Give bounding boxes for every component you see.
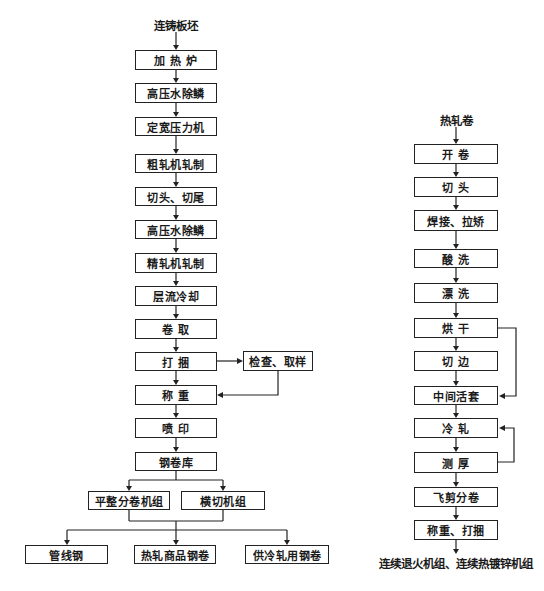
step-coiling: 卷 取 (135, 319, 217, 339)
step-laminar-cooling: 层流冷却 (135, 286, 217, 306)
step-head-cut: 切 头 (414, 177, 498, 197)
step-heating-furnace: 加 热 炉 (135, 50, 217, 70)
product-pipeline-steel: 管线钢 (25, 545, 108, 564)
product-commercial-hot-coil: 热轧商品钢卷 (134, 545, 216, 564)
process-flow-diagram: 连铸板坯 加 热 炉 高压水除鳞 定宽压力机 粗轧机轧制 切头、切尾 高压水除鳞… (0, 0, 544, 591)
step-coil-warehouse: 钢卷库 (135, 452, 217, 471)
step-bundling: 打 捆 (135, 352, 217, 371)
right-end-label: 连续退火机组、连续热镀锌机组 (379, 555, 533, 571)
step-pickling: 酸 洗 (414, 249, 498, 268)
step-rinsing: 漂 洗 (414, 283, 498, 303)
step-cold-rolling: 冷 轧 (414, 418, 498, 438)
step-weigh-bundle: 称重、打捆 (414, 520, 498, 540)
product-cold-rolling-coil: 供冷轧用钢卷 (245, 545, 329, 564)
step-flying-shear: 飞剪分卷 (414, 487, 498, 507)
right-start-label: 热轧卷 (440, 112, 473, 128)
step-marking: 喷 印 (135, 418, 217, 438)
branch-skin-pass-slitting: 平整分卷机组 (88, 491, 170, 510)
step-intermediate-looper: 中间活套 (414, 386, 498, 405)
step-rough-rolling: 粗轧机轧制 (135, 154, 217, 173)
step-thickness-gauge: 测 厚 (414, 452, 498, 473)
thickness-feedback (498, 425, 514, 462)
step-drying: 烘 干 (414, 318, 498, 338)
branch-cut-to-length: 横切机组 (181, 491, 265, 510)
dryer-bypass (498, 328, 516, 399)
step-width-press: 定宽压力机 (135, 117, 217, 136)
step-descaling-1: 高压水除鳞 (135, 83, 217, 103)
step-descaling-2: 高压水除鳞 (135, 220, 217, 239)
step-uncoiling: 开 卷 (414, 144, 498, 164)
step-crop-head-tail: 切头、切尾 (135, 187, 217, 206)
step-weighing: 称 重 (135, 385, 217, 405)
step-finish-rolling: 精轧机轧制 (135, 253, 217, 273)
left-start-label: 连铸板坯 (154, 17, 198, 33)
step-inspection-sampling: 检查、取样 (243, 351, 313, 371)
step-welding-leveling: 焊接、拉矫 (414, 210, 498, 231)
step-edge-trimming: 切 边 (414, 351, 498, 371)
